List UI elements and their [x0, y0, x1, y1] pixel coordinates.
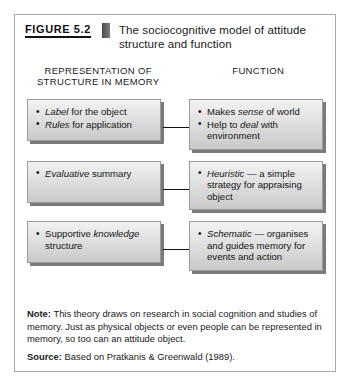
node-representation-3: Supportive knowledge structure	[27, 221, 161, 263]
node-list: Supportive knowledge structure	[36, 228, 153, 251]
emphasis-text: knowledge	[94, 228, 140, 239]
list-item: Label for the object	[36, 106, 153, 118]
emphasis-text: Evaluative	[45, 168, 89, 179]
note-label: Note:	[27, 308, 51, 319]
figure-container: FIGURE 5.2 The sociocognitive model of a…	[14, 14, 336, 372]
emphasis-text: Label	[45, 106, 68, 117]
diagram-rows: Label for the object Rules for applicati…	[15, 99, 335, 282]
figure-note: Note: This theory draws on research in s…	[27, 308, 323, 345]
list-item: Supportive knowledge structure	[36, 228, 153, 251]
item-text: summary	[89, 168, 131, 179]
node-representation-2: Evaluative summary	[27, 161, 161, 203]
item-text: for the object	[68, 106, 126, 117]
figure-header: FIGURE 5.2 The sociocognitive model of a…	[15, 15, 335, 51]
item-text: of world	[264, 106, 300, 117]
node-list: Schematic — organises and guides memory …	[198, 228, 315, 263]
list-item: Rules for application	[36, 119, 153, 131]
diagram-row: Label for the object Rules for applicati…	[15, 99, 335, 150]
node-list: Evaluative summary	[36, 168, 153, 180]
column-headings: REPRESENTATION OF STRUCTURE IN MEMORY FU…	[15, 65, 335, 87]
emphasis-text: Heuristic	[207, 168, 244, 179]
source-label: Source:	[27, 351, 62, 362]
item-text-pre: Makes	[207, 106, 238, 117]
list-item: Makes sense of world	[198, 106, 315, 118]
item-text-pre: Supportive	[45, 228, 94, 239]
source-text: Based on Pratkanis & Greenwald (1989).	[62, 351, 235, 362]
list-item: Heuristic — a simple strategy for apprai…	[198, 168, 315, 203]
list-item: Evaluative summary	[36, 168, 153, 180]
emphasis-text: sense	[238, 106, 264, 117]
emphasis-text: deal	[240, 119, 258, 130]
figure-footer: Note: This theory draws on research in s…	[15, 308, 335, 363]
node-list: Makes sense of world Help to deal with e…	[198, 106, 315, 142]
figure-source: Source: Based on Pratkanis & Greenwald (…	[27, 351, 323, 363]
header-separator-bar	[102, 23, 110, 38]
item-text-pre: Help to	[207, 119, 240, 130]
emphasis-text: Schematic	[207, 228, 252, 239]
column-heading-representation: REPRESENTATION OF STRUCTURE IN MEMORY	[15, 65, 181, 87]
list-item: Help to deal with environment	[198, 119, 315, 142]
diagram-row: Supportive knowledge structure Schematic…	[15, 221, 335, 271]
node-list: Heuristic — a simple strategy for apprai…	[198, 168, 315, 203]
note-text: This theory draws on research in social …	[27, 308, 322, 344]
item-text: for application	[70, 119, 132, 130]
node-representation-1: Label for the object Rules for applicati…	[27, 99, 161, 141]
emphasis-text: Rules	[45, 119, 70, 130]
figure-number-label: FIGURE 5.2	[25, 23, 91, 38]
figure-title: The sociocognitive model of attitude str…	[119, 23, 325, 51]
item-text: structure	[45, 240, 82, 251]
list-item: Schematic — organises and guides memory …	[198, 228, 315, 263]
node-list: Label for the object Rules for applicati…	[36, 106, 153, 130]
diagram-row: Evaluative summary Heuristic — a simple …	[15, 161, 335, 211]
node-function-3: Schematic — organises and guides memory …	[189, 221, 323, 271]
node-function-1: Makes sense of world Help to deal with e…	[189, 99, 323, 150]
column-heading-function: FUNCTION	[181, 65, 335, 87]
node-function-2: Heuristic — a simple strategy for apprai…	[189, 161, 323, 211]
